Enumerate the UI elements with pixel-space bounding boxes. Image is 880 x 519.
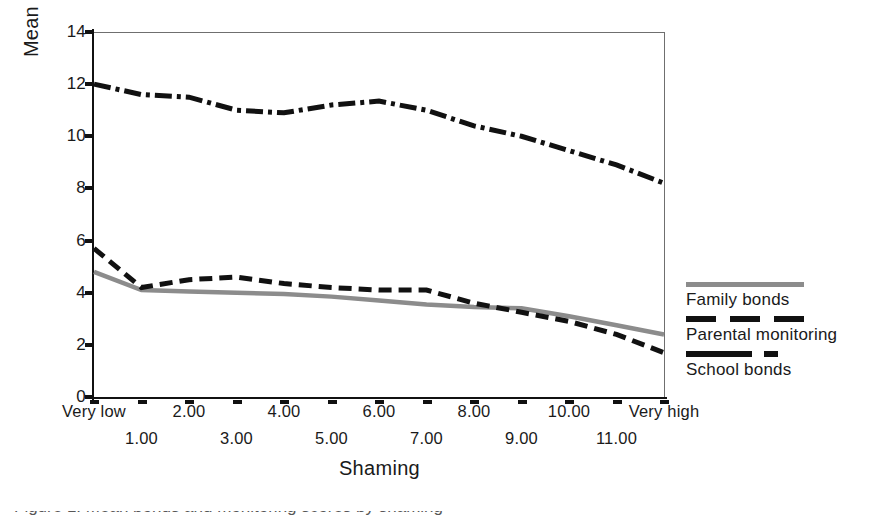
legend-swatch-dashdot-black-icon (686, 351, 804, 357)
x-tick-label: 10.00 (548, 402, 590, 421)
legend-swatch-solid-gray-icon (686, 282, 804, 287)
legend-entry-school-bonds: School bonds (686, 351, 876, 380)
y-tick-label: 10 (67, 126, 86, 146)
x-axis-line (92, 397, 667, 399)
x-tick-label: 6.00 (363, 402, 396, 421)
y-tick-label: 6 (76, 231, 86, 251)
y-tick-label: 12 (67, 74, 86, 94)
series-line-school-bonds (94, 84, 664, 183)
y-tick-label: 4 (76, 283, 86, 303)
series-lines (94, 32, 665, 397)
plot-area: 02468101214 (94, 32, 665, 397)
y-tick (85, 82, 94, 86)
x-tick-label: 8.00 (458, 402, 491, 421)
y-tick (85, 291, 94, 295)
x-tick-label: 11.00 (596, 429, 637, 448)
x-tick-label: Very high (629, 402, 700, 421)
chart-legend: Family bonds Parental monitoring School … (686, 282, 876, 386)
y-tick (85, 30, 94, 34)
x-tick-label: 1.00 (125, 429, 158, 448)
x-axis-title: Shaming (94, 457, 665, 480)
figure-caption: Figure 1. Mean bonds and monitoring scor… (14, 511, 443, 517)
y-tick (85, 343, 94, 347)
x-tick-label: 7.00 (410, 429, 443, 448)
y-tick (85, 395, 94, 399)
y-axis-title-wrap: Mean bonds and monitoring scores (22, 30, 52, 370)
y-tick-label: 8 (76, 178, 86, 198)
y-tick (85, 186, 94, 190)
y-tick-label: 14 (67, 22, 86, 42)
x-tick-label: 3.00 (220, 429, 253, 448)
legend-label-family-bonds: Family bonds (686, 290, 876, 310)
x-tick-label: 2.00 (173, 402, 206, 421)
y-tick (85, 134, 94, 138)
legend-label-parental-monitoring: Parental monitoring (686, 325, 876, 345)
y-axis-title: Mean bonds and monitoring scores (20, 0, 43, 57)
y-tick (85, 239, 94, 243)
x-tick-label: 9.00 (505, 429, 538, 448)
figure-chart: Mean bonds and monitoring scores 0246810… (0, 0, 880, 519)
x-tick-label: Very low (62, 402, 126, 421)
y-tick-label: 2 (76, 335, 86, 355)
legend-label-school-bonds: School bonds (686, 360, 876, 380)
legend-swatch-dashed-black-icon (686, 316, 804, 322)
x-tick-label: 5.00 (315, 429, 348, 448)
x-tick-label: 4.00 (268, 402, 301, 421)
legend-entry-parental-monitoring: Parental monitoring (686, 316, 876, 345)
figure-caption-strip: Figure 1. Mean bonds and monitoring scor… (0, 511, 880, 519)
x-axis-tick-labels: Very low1.002.003.004.005.006.007.008.00… (94, 402, 665, 452)
legend-entry-family-bonds: Family bonds (686, 282, 876, 310)
